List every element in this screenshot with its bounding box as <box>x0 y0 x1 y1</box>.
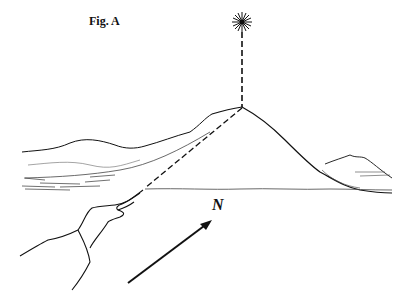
star-icon <box>232 12 252 32</box>
north-label: N <box>212 196 224 214</box>
mountain <box>212 107 392 193</box>
pointing-hand <box>20 190 143 290</box>
north-arrow-icon <box>128 220 212 283</box>
illustration <box>0 0 414 300</box>
left-hill <box>22 132 190 152</box>
sight-line <box>145 108 242 188</box>
right-hill <box>325 155 392 178</box>
figure-canvas: Fig. A <box>0 0 414 300</box>
